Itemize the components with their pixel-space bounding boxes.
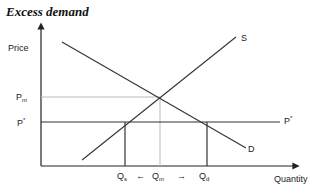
x-axis-label: Quantity: [274, 174, 308, 184]
right-arrow: →: [177, 171, 186, 181]
pstar-label: P*: [17, 117, 26, 128]
demand-label: D: [248, 144, 255, 154]
demand-curve: [62, 42, 246, 148]
left-arrow: ←: [136, 171, 145, 181]
qs-label: Qs: [117, 171, 127, 182]
price-ceiling-label: P*: [284, 115, 293, 126]
supply-label: S: [241, 33, 247, 43]
qm-label: Qm: [152, 171, 164, 182]
supply-curve: [82, 37, 236, 160]
pm-label: Pm: [16, 92, 27, 103]
supply-demand-diagram: Price Quantity Pm P* S D P* Qs ← Qm → Qd: [0, 0, 325, 190]
qd-label: Qd: [199, 171, 209, 182]
y-axis-label: Price: [8, 43, 29, 53]
